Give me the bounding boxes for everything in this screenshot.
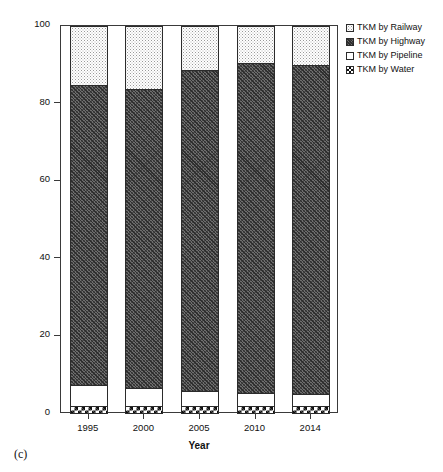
legend-swatch-icon: [346, 38, 354, 46]
bar-2000[interactable]: [125, 26, 163, 414]
bar-segment[interactable]: [292, 65, 330, 394]
y-tick-label: 80: [8, 96, 50, 107]
x-tick-label: 1995: [58, 422, 118, 433]
legend-item-label: TKM by Water: [357, 65, 414, 74]
stacked-bar-chart-figure: Percentage (%) 020406080100 199520002005…: [0, 0, 443, 472]
y-tick-label: 100: [8, 18, 50, 29]
bar-segment[interactable]: [237, 406, 275, 414]
x-axis-title: Year: [60, 440, 338, 451]
x-tick-mark: [199, 413, 200, 419]
bar-segment[interactable]: [125, 89, 163, 388]
bar-segment[interactable]: [237, 63, 275, 393]
bar-segment[interactable]: [125, 26, 163, 89]
chart-legend: TKM by RailwayTKM by HighwayTKM by Pipel…: [346, 21, 442, 77]
bar-segment[interactable]: [181, 70, 219, 391]
bar-segment[interactable]: [237, 26, 275, 63]
bar-segment[interactable]: [70, 26, 108, 85]
legend-swatch-icon: [346, 24, 354, 32]
x-tick-mark: [310, 413, 311, 419]
y-tick-label: 0: [8, 406, 50, 417]
y-tick-label: 60: [8, 173, 50, 184]
x-tick-label: 2000: [113, 422, 173, 433]
bar-segment[interactable]: [70, 406, 108, 414]
legend-item-label: TKM by Pipeline: [357, 51, 423, 60]
bar-1995[interactable]: [70, 26, 108, 414]
bar-segment[interactable]: [125, 388, 163, 406]
bar-2010[interactable]: [237, 26, 275, 414]
legend-item[interactable]: TKM by Highway: [346, 35, 442, 48]
x-tick-mark: [88, 413, 89, 419]
legend-swatch-icon: [346, 66, 354, 74]
bar-2005[interactable]: [181, 26, 219, 414]
x-tick-mark: [143, 413, 144, 419]
legend-item-label: TKM by Highway: [357, 37, 425, 46]
bar-segment[interactable]: [237, 393, 275, 406]
bar-2014[interactable]: [292, 26, 330, 414]
bar-segment[interactable]: [292, 406, 330, 414]
legend-item[interactable]: TKM by Pipeline: [346, 49, 442, 62]
y-tick-label: 20: [8, 328, 50, 339]
bar-segment[interactable]: [181, 391, 219, 406]
bar-segment[interactable]: [125, 406, 163, 414]
y-tick-label: 40: [8, 251, 50, 262]
bar-segment[interactable]: [70, 85, 108, 385]
bar-segment[interactable]: [181, 26, 219, 70]
plot-area: [60, 25, 338, 413]
bar-segment[interactable]: [181, 406, 219, 414]
legend-item[interactable]: TKM by Water: [346, 63, 442, 76]
panel-caption: (c): [14, 447, 27, 462]
bar-segment[interactable]: [292, 394, 330, 406]
legend-item-label: TKM by Railway: [357, 23, 422, 32]
legend-swatch-icon: [346, 52, 354, 60]
bar-segment[interactable]: [292, 26, 330, 65]
bar-segment[interactable]: [70, 385, 108, 406]
x-tick-label: 2010: [225, 422, 285, 433]
x-tick-label: 2005: [169, 422, 229, 433]
legend-item[interactable]: TKM by Railway: [346, 21, 442, 34]
x-tick-label: 2014: [280, 422, 340, 433]
x-tick-mark: [255, 413, 256, 419]
